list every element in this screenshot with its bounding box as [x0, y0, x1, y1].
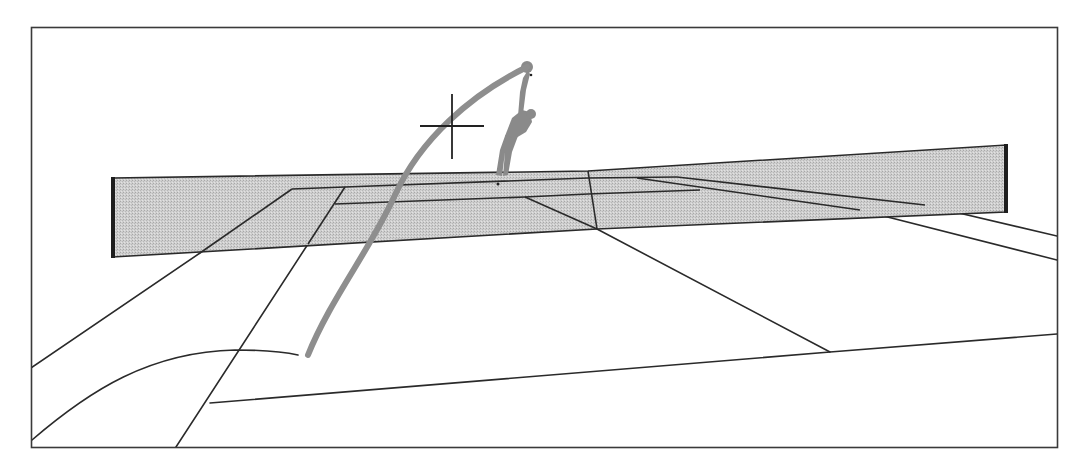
player-foot-mark	[497, 183, 500, 186]
player-head	[526, 109, 536, 119]
court-illustration	[0, 0, 1079, 466]
ball-toss-dot	[530, 74, 533, 77]
figure: Perspective line drawing of a tennis cou…	[0, 0, 1079, 466]
